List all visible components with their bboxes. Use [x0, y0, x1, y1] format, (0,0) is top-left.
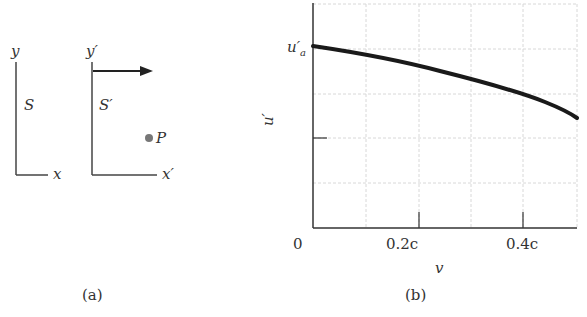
plot-axes [313, 3, 577, 228]
s-prime-x-axis-label: x′ [162, 167, 174, 182]
panel-a-caption: (a) [82, 288, 103, 303]
point-p-label: P [156, 131, 166, 146]
x-axis-label: v [435, 261, 443, 276]
velocity-arrow-icon [93, 66, 153, 76]
s-frame-label: S [24, 98, 34, 113]
s-y-axis-label: y [11, 44, 19, 59]
x-tick-label-0: 0 [293, 237, 303, 252]
s-prime-frame-label: S′ [99, 98, 113, 113]
x-tick-label-0.4c: 0.4c [506, 237, 538, 252]
plot-grid [313, 4, 577, 228]
frame-s-prime-axes [92, 62, 157, 175]
s-prime-y-axis-label: y′ [86, 44, 98, 59]
y-axis-label: u′ [261, 113, 276, 126]
u-prime-curve [313, 46, 577, 118]
frame-s-axes [16, 62, 48, 175]
panel-b-caption: (b) [405, 288, 426, 303]
x-tick-label-0.2c: 0.2c [386, 237, 418, 252]
s-x-axis-label: x [53, 167, 61, 182]
point-p-marker [145, 134, 153, 142]
y-tick-label-u-prime-a: u′a [287, 40, 306, 58]
